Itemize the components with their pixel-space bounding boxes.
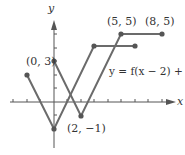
equation-label: y = f(x − 2) + 1 — [109, 66, 185, 77]
y-axis-arrow-icon — [51, 20, 57, 30]
point-label-5-5: (5, 5) — [107, 16, 137, 27]
point-label-0-3: (0, 3) — [26, 56, 56, 67]
x-axis — [10, 99, 176, 105]
y-axis-label: y — [48, 3, 54, 14]
point-label-2-neg1: (2, −1) — [67, 123, 106, 134]
point-label-8-5: (8, 5) — [145, 16, 175, 27]
x-axis-label: x — [177, 96, 183, 107]
x-axis-arrow-icon — [166, 99, 176, 105]
